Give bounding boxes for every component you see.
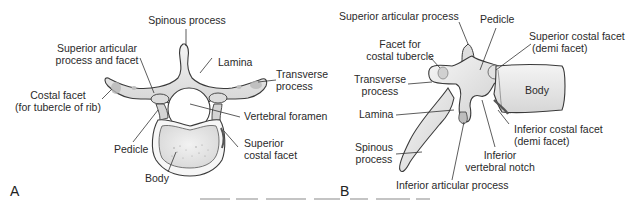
label-a-pedicle: Pedicle bbox=[114, 144, 148, 156]
label-a-spinous-process: Spinous process bbox=[148, 15, 226, 27]
label-b-inferior-costal-line1: Inferior costal facet bbox=[514, 124, 603, 136]
label-a-superior-costal-line2: costal facet bbox=[244, 150, 297, 162]
label-b-spinous-line2: process bbox=[352, 154, 396, 166]
figure-caption-cutoff bbox=[200, 197, 440, 201]
panel-letter-a: A bbox=[10, 183, 19, 199]
label-b-inferior-notch-line2: vertebral notch bbox=[460, 162, 540, 174]
label-a-superior-costal-line1: Superior bbox=[244, 138, 284, 150]
label-b-superior-articular: Superior articular process bbox=[339, 11, 459, 23]
label-b-facet-costal-line1: Facet for bbox=[360, 39, 440, 51]
label-b-inferior-articular: Inferior articular process bbox=[396, 180, 509, 192]
label-a-transverse-line2: process bbox=[276, 81, 313, 93]
label-b-lamina: Lamina bbox=[359, 109, 393, 121]
label-b-transverse-line1: Transverse bbox=[350, 74, 410, 86]
label-b-transverse-line2: process bbox=[350, 86, 410, 98]
label-b-facet-costal-line2: costal tubercle bbox=[360, 51, 440, 63]
label-a-superior-articular-line2: process and facet bbox=[54, 55, 140, 67]
label-a-vertebral-foramen: Vertebral foramen bbox=[244, 111, 327, 123]
label-b-body: Body bbox=[525, 85, 549, 97]
label-a-superior-articular-line1: Superior articular bbox=[54, 43, 140, 55]
label-b-pedicle: Pedicle bbox=[480, 14, 514, 26]
label-b-inferior-costal-line2: (demi facet) bbox=[514, 136, 569, 148]
label-a-transverse-line1: Transverse bbox=[276, 69, 328, 81]
caption-fragment bbox=[200, 197, 440, 201]
label-a-costal-facet-line2: (for tubercle of rib) bbox=[14, 102, 102, 114]
label-a-body: Body bbox=[145, 173, 169, 185]
label-b-spinous-line1: Spinous bbox=[352, 142, 396, 154]
vertebra-figure: Spinous process Superior articular proce… bbox=[0, 0, 636, 206]
label-b-inferior-notch-line1: Inferior bbox=[460, 150, 540, 162]
label-b-superior-costal-line2: (demi facet) bbox=[532, 43, 587, 55]
label-b-superior-costal-line1: Superior costal facet bbox=[529, 31, 625, 43]
label-a-costal-facet-line1: Costal facet bbox=[14, 90, 102, 102]
label-a-lamina: Lamina bbox=[218, 57, 252, 69]
